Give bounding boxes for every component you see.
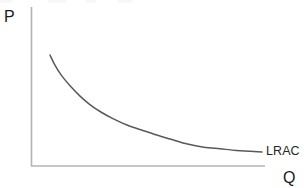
x-axis-title: Q bbox=[283, 170, 296, 186]
plot-area bbox=[0, 0, 304, 188]
lrac-curve bbox=[50, 55, 262, 152]
lrac-curve-label: LRAC bbox=[266, 145, 300, 158]
y-axis-title: P bbox=[4, 9, 15, 25]
chart-canvas: P Q LRAC bbox=[0, 0, 304, 188]
